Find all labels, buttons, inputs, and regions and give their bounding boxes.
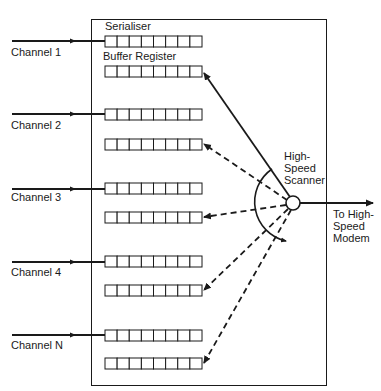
multiplexer-diagram: Serialiser Buffer Register Channel 1 Cha… <box>0 0 381 391</box>
high-speed-scanner <box>286 196 300 210</box>
register-cell <box>117 183 129 194</box>
register-cell <box>141 66 153 77</box>
output-label-line3: Modem <box>333 232 370 244</box>
output-label-line1: To High- <box>333 208 374 220</box>
buffer-register-label: Buffer Register <box>103 50 177 62</box>
register-cell <box>166 66 178 77</box>
register-cell <box>117 66 129 77</box>
register-cell <box>154 36 166 47</box>
register-cell <box>178 183 190 194</box>
register-cell <box>117 139 129 150</box>
register-cell <box>166 183 178 194</box>
register-cell <box>141 183 153 194</box>
register-cell <box>117 212 129 223</box>
register-cell <box>166 212 178 223</box>
register-cell <box>129 36 141 47</box>
register-cell <box>178 139 190 150</box>
scanner-label-line1: High- <box>284 150 311 162</box>
register-cell <box>105 109 117 120</box>
register-cell <box>105 358 117 369</box>
register-cell <box>166 109 178 120</box>
register-cell <box>129 183 141 194</box>
register-cell <box>117 358 129 369</box>
serialiser-register-channel-1 <box>105 36 202 47</box>
register-cell <box>166 358 178 369</box>
register-cell <box>141 358 153 369</box>
register-cell <box>190 36 202 47</box>
register-cell <box>141 139 153 150</box>
register-cell <box>154 358 166 369</box>
register-cell <box>105 330 117 341</box>
buffer-register-channel-3 <box>105 212 202 223</box>
register-cell <box>105 66 117 77</box>
register-cell <box>166 330 178 341</box>
buffer-register-channel-n <box>105 358 202 369</box>
channel-n-label: Channel N <box>11 339 63 351</box>
scanner-active-link <box>204 73 290 197</box>
register-cell <box>105 183 117 194</box>
channel-2-label: Channel 2 <box>11 119 61 131</box>
serialiser-register-channel-2 <box>105 109 202 120</box>
register-cell <box>141 285 153 296</box>
register-cell <box>141 109 153 120</box>
register-cell <box>190 330 202 341</box>
scanner-label-line3: Scanner <box>284 174 325 186</box>
register-cell <box>129 66 141 77</box>
register-cell <box>154 109 166 120</box>
register-cell <box>154 285 166 296</box>
register-cell <box>190 66 202 77</box>
register-cell <box>154 330 166 341</box>
register-cell <box>190 212 202 223</box>
register-cell <box>105 36 117 47</box>
register-cell <box>129 139 141 150</box>
register-cell <box>117 256 129 267</box>
register-rows <box>105 36 202 369</box>
register-cell <box>178 36 190 47</box>
serialiser-label: Serialiser <box>105 20 151 32</box>
register-cell <box>166 139 178 150</box>
register-cell <box>129 256 141 267</box>
channel-3-label: Channel 3 <box>11 191 61 203</box>
register-cell <box>105 285 117 296</box>
serialiser-register-channel-3 <box>105 183 202 194</box>
register-cell <box>166 36 178 47</box>
register-cell <box>141 212 153 223</box>
serialiser-register-channel-4 <box>105 256 202 267</box>
register-cell <box>105 212 117 223</box>
register-cell <box>178 285 190 296</box>
register-cell <box>141 256 153 267</box>
register-cell <box>190 256 202 267</box>
register-cell <box>190 139 202 150</box>
register-cell <box>117 109 129 120</box>
buffer-register-channel-4 <box>105 285 202 296</box>
register-cell <box>178 358 190 369</box>
register-cell <box>178 256 190 267</box>
register-cell <box>105 256 117 267</box>
register-cell <box>117 36 129 47</box>
register-cell <box>154 139 166 150</box>
register-cell <box>166 256 178 267</box>
output-label-line2: Speed <box>333 220 365 232</box>
register-cell <box>178 66 190 77</box>
register-cell <box>154 66 166 77</box>
register-cell <box>129 212 141 223</box>
register-cell <box>190 109 202 120</box>
register-cell <box>129 109 141 120</box>
register-cell <box>129 285 141 296</box>
register-cell <box>166 285 178 296</box>
register-cell <box>190 183 202 194</box>
scanner-label-line2: Speed <box>284 162 316 174</box>
register-cell <box>154 212 166 223</box>
register-cell <box>117 285 129 296</box>
channel-4-label: Channel 4 <box>11 266 61 278</box>
channel-1-label: Channel 1 <box>11 46 61 58</box>
serialiser-register-channel-n <box>105 330 202 341</box>
register-cell <box>141 330 153 341</box>
scanner-pending-links <box>204 144 291 363</box>
register-cell <box>129 358 141 369</box>
register-cell <box>190 358 202 369</box>
register-cell <box>178 109 190 120</box>
register-cell <box>154 256 166 267</box>
register-cell <box>129 330 141 341</box>
register-cell <box>190 285 202 296</box>
